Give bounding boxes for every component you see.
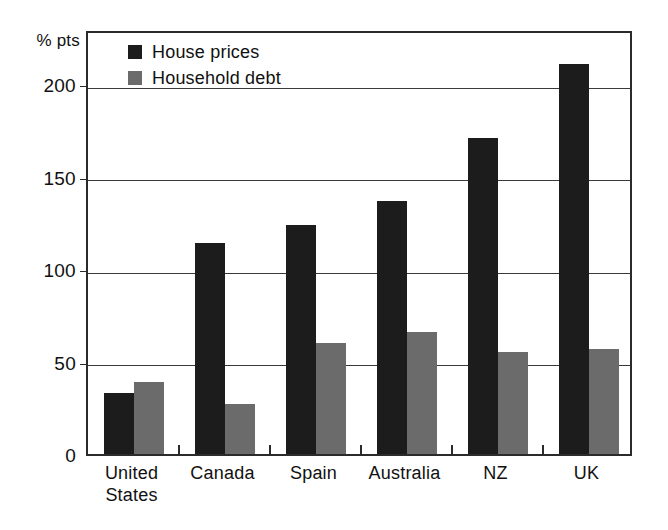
y-axis-unit-label: % pts	[10, 31, 80, 51]
legend-label-household-debt: Household debt	[152, 68, 281, 88]
legend-label-house-prices: House prices	[152, 42, 259, 62]
x-axis-category-label: Australia	[359, 462, 450, 484]
x-axis-category-label: NZ	[450, 462, 541, 484]
category-label-line: United	[86, 462, 177, 484]
x-axis-category-label: Spain	[268, 462, 359, 484]
category-label-line: Spain	[268, 462, 359, 484]
legend-item-household-debt: Household debt	[128, 66, 281, 89]
legend-swatch-icon-house-prices	[128, 45, 142, 59]
category-label-line: States	[86, 484, 177, 506]
bar-chart-figure: % pts 050100150200 UnitedStatesCanadaSpa…	[0, 0, 668, 530]
category-label-line: UK	[541, 462, 632, 484]
category-label-line: Canada	[177, 462, 268, 484]
chart-legend: House prices Household debt	[128, 40, 281, 92]
category-label-line: NZ	[450, 462, 541, 484]
plot-area	[86, 31, 632, 456]
legend-swatch-icon-household-debt	[128, 71, 142, 85]
x-axis-tick-mark	[178, 445, 180, 454]
y-axis-tick-label: 0	[4, 446, 76, 465]
x-axis-category-label: UnitedStates	[86, 462, 177, 506]
x-axis-tick-mark	[542, 445, 544, 454]
legend-item-house-prices: House prices	[128, 40, 281, 63]
y-axis-tick-label: 50	[4, 354, 76, 373]
x-axis-category-label: UK	[541, 462, 632, 484]
category-label-line: Australia	[359, 462, 450, 484]
x-axis-tick-mark	[360, 445, 362, 454]
x-axis-tick-mark	[451, 445, 453, 454]
x-axis-tick-mark	[269, 445, 271, 454]
x-axis-ticks	[88, 33, 630, 454]
y-axis-tick-label: 150	[4, 169, 76, 188]
y-axis-tick-label: 100	[4, 261, 76, 280]
x-axis-category-label: Canada	[177, 462, 268, 484]
y-axis-tick-label: 200	[4, 76, 76, 95]
